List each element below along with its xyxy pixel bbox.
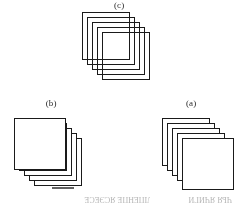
panel-label-a: (ɐ) [176,100,206,109]
scan-bleed-line-2: ЧЬЯ ЯЧИГИ [189,195,232,204]
square-stack-c [82,12,152,82]
stack-a-card-5 [182,138,234,190]
panel-label-c: (ɔ) [104,2,134,11]
scan-bleed-line-1: ЛПЕНПЕ ЯСЭЕСЕ [84,195,150,204]
square-stack-a [162,118,234,190]
scan-bleed-caption: ЛПЕНПЕ ЯСЭЕСЕ ЧЬЯ ЯЧИГИ [0,193,240,207]
figure-page: (ɔ) (q) (ɐ) ЛПЕНПЕ ЯСЭЕСЕ ЧЬЯ ЯЧИГИ [0,0,240,207]
stack-b-card-1 [14,118,66,170]
square-stack-b [14,118,86,190]
panel-label-b: (q) [36,100,66,109]
scan-bleed-rule-left [52,187,74,189]
stack-c-card-5 [102,32,150,80]
